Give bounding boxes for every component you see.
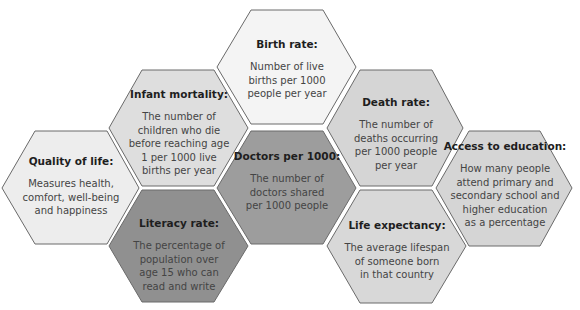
hexagon-description: Measures health,comfort, well-beingand h… — [23, 177, 120, 218]
hexagon-label-access-to-education: Access to education:How many peopleatten… — [440, 140, 570, 230]
description-line: births per 1000 — [247, 74, 326, 88]
hexagon-title: Access to education: — [444, 140, 567, 153]
description-line: secondary school and — [450, 189, 559, 203]
description-line: and happiness — [23, 204, 120, 218]
description-line: population over — [133, 253, 225, 267]
hexagon-label-doctors-per-1000: Doctors per 1000:The number ofdoctors sh… — [224, 150, 350, 213]
description-line: Number of live — [247, 60, 326, 74]
description-line: Measures health, — [23, 177, 120, 191]
hexagon-title: Literacy rate: — [139, 217, 219, 230]
description-line: deaths occurring — [354, 132, 438, 146]
description-line: births per year — [129, 164, 230, 178]
description-line: comfort, well-being — [23, 191, 120, 205]
description-line: in that country — [344, 268, 449, 282]
description-line: children who die — [129, 124, 230, 138]
description-line: doctors shared — [246, 186, 328, 200]
hexagon-title: Quality of life: — [29, 155, 114, 168]
description-line: per 1000 people — [354, 145, 438, 159]
description-line: read and write — [133, 280, 225, 294]
hexagon-title: Death rate: — [362, 96, 430, 109]
hexagon-description: The number ofdoctors sharedper 1000 peop… — [246, 172, 328, 213]
hexagon-label-quality-of-life: Quality of life:Measures health,comfort,… — [6, 155, 136, 218]
hexagon-label-life-expectancy: Life expectancy:The average lifespanof s… — [330, 219, 464, 282]
description-line: age 15 who can — [133, 266, 225, 280]
description-line: 1 per 1000 live — [129, 151, 230, 165]
hexagon-title: Life expectancy: — [348, 219, 445, 232]
hexagon-title: Doctors per 1000: — [234, 150, 340, 163]
description-line: people per year — [247, 87, 326, 101]
description-line: The number of — [246, 172, 328, 186]
description-line: The number of — [129, 110, 230, 124]
hexagon-description: The average lifespanof someone bornin th… — [344, 241, 449, 282]
description-line: as a percentage — [450, 216, 559, 230]
description-line: The percentage of — [133, 239, 225, 253]
description-line: The average lifespan — [344, 241, 449, 255]
description-line: of someone born — [344, 255, 449, 269]
description-line: attend primary and — [450, 176, 559, 190]
description-line: before reaching age — [129, 137, 230, 151]
hexagon-description: The number ofchildren who diebefore reac… — [129, 110, 230, 178]
description-line: How many people — [450, 162, 559, 176]
description-line: per year — [354, 159, 438, 173]
hexagon-label-literacy-rate: Literacy rate:The percentage ofpopulatio… — [114, 217, 244, 293]
description-line: The number of — [354, 118, 438, 132]
hexagon-description: Number of livebirths per 1000people per … — [247, 60, 326, 101]
description-line: higher education — [450, 203, 559, 217]
description-line: per 1000 people — [246, 199, 328, 213]
hexagon-description: The percentage ofpopulation overage 15 w… — [133, 239, 225, 293]
hexagon-title: Infant mortality: — [130, 88, 228, 101]
hexagon-description: The number ofdeaths occurringper 1000 pe… — [354, 118, 438, 172]
hexagon-title: Birth rate: — [256, 38, 318, 51]
hexagon-description: How many peopleattend primary andseconda… — [450, 162, 559, 230]
